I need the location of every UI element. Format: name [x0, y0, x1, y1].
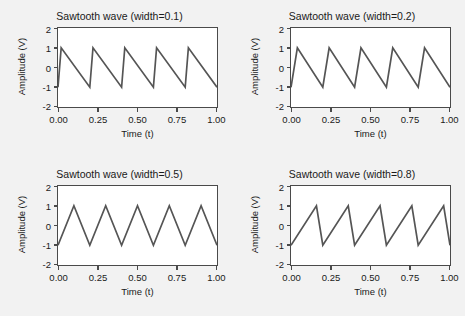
- y-tick-label: 0: [27, 220, 51, 231]
- y-tick-mark: [287, 186, 291, 188]
- x-axis-label: Time (t): [57, 128, 218, 139]
- x-tick-mark: [58, 108, 60, 112]
- y-tick-mark: [287, 47, 291, 49]
- subplot-2: Sawtooth wave (width=0.5)-2-10120.000.25…: [0, 158, 233, 316]
- x-tick-mark: [330, 266, 332, 270]
- x-tick-mark: [176, 108, 178, 112]
- x-tick-label: 0.25: [322, 272, 341, 283]
- x-tick-label: 0.25: [322, 114, 341, 125]
- y-tick-label: -2: [27, 101, 51, 112]
- y-tick-label: 1: [27, 201, 51, 212]
- waveform-svg: [58, 28, 217, 107]
- y-tick-mark: [54, 225, 58, 227]
- x-tick-mark: [176, 266, 178, 270]
- y-tick-label: -1: [27, 81, 51, 92]
- x-tick-label: 0.25: [89, 114, 108, 125]
- y-tick-label: -1: [260, 81, 284, 92]
- waveform-line: [291, 48, 450, 88]
- x-axis-label: Time (t): [57, 286, 218, 297]
- x-tick-mark: [409, 266, 411, 270]
- x-tick-mark: [216, 108, 218, 112]
- plot-area: [290, 185, 451, 266]
- y-tick-label: -2: [27, 259, 51, 270]
- y-tick-mark: [54, 186, 58, 188]
- x-tick-label: 1.00: [440, 114, 459, 125]
- x-tick-label: 1.00: [207, 272, 226, 283]
- x-tick-label: 0.50: [361, 114, 380, 125]
- x-tick-mark: [137, 266, 139, 270]
- x-tick-mark: [449, 108, 451, 112]
- y-tick-label: 1: [27, 43, 51, 54]
- y-tick-label: 0: [260, 62, 284, 73]
- subplot-title: Sawtooth wave (width=0.8): [247, 168, 457, 180]
- y-tick-mark: [287, 205, 291, 207]
- y-tick-mark: [287, 225, 291, 227]
- y-tick-mark: [54, 205, 58, 207]
- x-tick-mark: [409, 108, 411, 112]
- y-tick-mark: [54, 106, 58, 108]
- waveform-line: [58, 48, 217, 88]
- subplot-3: Sawtooth wave (width=0.8)-2-10120.000.25…: [233, 158, 465, 316]
- y-tick-label: 2: [27, 181, 51, 192]
- y-tick-mark: [287, 28, 291, 30]
- waveform-line: [58, 206, 217, 246]
- y-tick-mark: [287, 106, 291, 108]
- x-tick-label: 0.00: [49, 272, 68, 283]
- x-tick-label: 0.75: [401, 272, 420, 283]
- y-tick-label: 0: [27, 62, 51, 73]
- x-tick-label: 0.50: [128, 272, 147, 283]
- x-tick-label: 1.00: [207, 114, 226, 125]
- waveform-svg: [291, 186, 450, 265]
- y-tick-mark: [54, 86, 58, 88]
- y-tick-mark: [287, 67, 291, 69]
- y-tick-mark: [54, 244, 58, 246]
- x-tick-mark: [449, 266, 451, 270]
- x-tick-mark: [370, 108, 372, 112]
- y-axis-label: Amplitude (V): [249, 169, 260, 280]
- y-tick-label: 2: [260, 181, 284, 192]
- plot-area: [290, 27, 451, 108]
- y-axis-label: Amplitude (V): [16, 169, 27, 280]
- x-tick-label: 0.75: [168, 114, 187, 125]
- x-tick-label: 0.50: [128, 114, 147, 125]
- x-tick-mark: [58, 266, 60, 270]
- x-tick-label: 1.00: [440, 272, 459, 283]
- y-tick-label: 0: [260, 220, 284, 231]
- y-tick-mark: [54, 28, 58, 30]
- y-tick-mark: [287, 264, 291, 266]
- x-tick-mark: [291, 266, 293, 270]
- x-tick-label: 0.25: [89, 272, 108, 283]
- y-tick-label: -1: [260, 239, 284, 250]
- x-tick-mark: [330, 108, 332, 112]
- x-tick-label: 0.75: [401, 114, 420, 125]
- waveform-line: [291, 206, 450, 246]
- y-tick-label: 1: [260, 201, 284, 212]
- x-tick-mark: [370, 266, 372, 270]
- figure-canvas: Sawtooth wave (width=0.1)-2-10120.000.25…: [0, 0, 465, 316]
- y-tick-mark: [54, 47, 58, 49]
- x-tick-label: 0.75: [168, 272, 187, 283]
- x-axis-label: Time (t): [290, 128, 451, 139]
- x-axis-label: Time (t): [290, 286, 451, 297]
- subplot-title: Sawtooth wave (width=0.1): [14, 10, 225, 22]
- waveform-svg: [291, 28, 450, 107]
- x-tick-mark: [137, 108, 139, 112]
- y-axis-label: Amplitude (V): [249, 11, 260, 122]
- y-tick-mark: [54, 264, 58, 266]
- subplot-title: Sawtooth wave (width=0.2): [247, 10, 457, 22]
- y-tick-mark: [287, 244, 291, 246]
- subplot-1: Sawtooth wave (width=0.2)-2-10120.000.25…: [233, 0, 465, 158]
- y-tick-label: 2: [260, 23, 284, 34]
- x-tick-mark: [216, 266, 218, 270]
- subplot-title: Sawtooth wave (width=0.5): [14, 168, 225, 180]
- x-tick-label: 0.00: [49, 114, 68, 125]
- x-tick-mark: [97, 266, 99, 270]
- plot-area: [57, 27, 218, 108]
- y-tick-mark: [287, 86, 291, 88]
- y-tick-mark: [54, 67, 58, 69]
- plot-area: [57, 185, 218, 266]
- x-tick-label: 0.00: [282, 272, 301, 283]
- waveform-svg: [58, 186, 217, 265]
- y-axis-label: Amplitude (V): [16, 11, 27, 122]
- x-tick-mark: [97, 108, 99, 112]
